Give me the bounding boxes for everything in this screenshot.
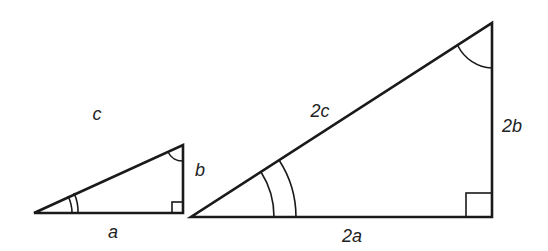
large-base-label: 2a — [342, 227, 362, 245]
triangles-svg — [0, 0, 548, 251]
large-right-angle-marker — [466, 193, 492, 217]
small-vertical-side-label: b — [195, 161, 205, 179]
small-right-angle-marker — [172, 202, 183, 213]
large-vertical-side-label: 2b — [502, 117, 522, 135]
large-acute-angle-arc-inner — [261, 172, 274, 217]
small-triangle — [34, 145, 183, 213]
small-apex-angle-arc — [168, 152, 183, 161]
large-hypotenuse-label: 2c — [310, 102, 329, 120]
large-apex-angle-arc — [458, 46, 492, 68]
small-hypotenuse-label: c — [93, 105, 102, 123]
large-triangle — [191, 23, 492, 217]
small-acute-angle-arc-outer — [74, 193, 78, 213]
small-base-label: a — [108, 223, 118, 241]
large-acute-angle-arc-outer — [279, 160, 296, 217]
small-acute-angle-arc-inner — [68, 196, 72, 213]
similar-triangles-diagram: c b a 2c 2b 2a — [0, 0, 548, 251]
